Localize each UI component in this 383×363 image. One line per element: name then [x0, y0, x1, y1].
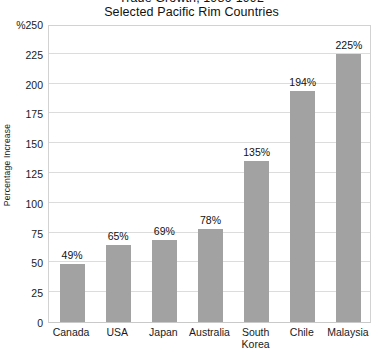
bar-value-label: 135%	[243, 146, 270, 158]
chart-title-block: Trade Growth, 1986-1992 Selected Pacific…	[0, 0, 383, 19]
chart-subtitle: Selected Pacific Rim Countries	[0, 5, 383, 19]
x-axis-category-label: Japan	[140, 326, 186, 338]
bar	[152, 240, 177, 322]
y-axis-tick-label: 175	[25, 108, 43, 120]
y-axis-tick-label: 50	[31, 257, 43, 269]
bar-slot: 135%	[244, 26, 269, 322]
x-axis-category-label: Malaysia	[325, 326, 371, 338]
x-axis-category-label: Canada	[48, 326, 94, 338]
bar	[198, 229, 223, 322]
bar-value-label: 69%	[154, 225, 175, 237]
y-axis-tick-label: 200	[25, 79, 43, 91]
y-axis-tick-label: 25	[31, 287, 43, 299]
bar-value-label: 65%	[108, 230, 129, 242]
y-axis-tick-label: 75	[31, 228, 43, 240]
y-axis-tick-label: 125	[25, 168, 43, 180]
x-axis-category-label-line: South	[233, 326, 279, 338]
x-axis-category-label-line: Malaysia	[325, 326, 371, 338]
x-axis-category-label-line: Australia	[186, 326, 232, 338]
y-axis-tick-label: 150	[25, 138, 43, 150]
bar	[336, 54, 361, 322]
bar-slot: 225%	[336, 26, 361, 322]
bar-series: 49%65%69%78%135%194%225%	[49, 26, 370, 322]
bar-value-label: 194%	[289, 76, 316, 88]
y-axis-tick-label: 0	[37, 317, 43, 329]
bar-value-label: 49%	[62, 249, 83, 261]
x-axis-category-label-line: Japan	[140, 326, 186, 338]
x-axis-category-label: SouthKorea	[233, 326, 279, 350]
y-axis-tick-labels: 0255075100125150175200225%250	[0, 25, 48, 323]
bar	[60, 264, 85, 322]
bar-slot: 49%	[60, 26, 85, 322]
x-axis-category-label: Australia	[186, 326, 232, 338]
x-axis-category-label-line: Korea	[233, 338, 279, 350]
x-axis-category-label-line: USA	[94, 326, 140, 338]
bar-value-label: 225%	[335, 39, 362, 51]
bar-slot: 78%	[198, 26, 223, 322]
x-axis-category-label: Chile	[279, 326, 325, 338]
bar-slot: 69%	[152, 26, 177, 322]
y-axis-tick-label: 225	[25, 49, 43, 61]
plot-area: 49%65%69%78%135%194%225%	[48, 25, 371, 323]
y-axis-tick-label: %250	[16, 19, 43, 31]
x-axis-category-labels: CanadaUSAJapanAustraliaSouthKoreaChileMa…	[48, 326, 371, 363]
x-axis-category-label-line: Chile	[279, 326, 325, 338]
x-axis-category-label-line: Canada	[48, 326, 94, 338]
bar-value-label: 78%	[200, 214, 221, 226]
bar	[106, 245, 131, 322]
bar-chart: Trade Growth, 1986-1992 Selected Pacific…	[0, 0, 383, 363]
bar-slot: 65%	[106, 26, 131, 322]
x-axis-category-label: USA	[94, 326, 140, 338]
bar-slot: 194%	[290, 26, 315, 322]
y-axis-tick-label: 100	[25, 198, 43, 210]
bar	[244, 161, 269, 322]
bar	[290, 91, 315, 322]
